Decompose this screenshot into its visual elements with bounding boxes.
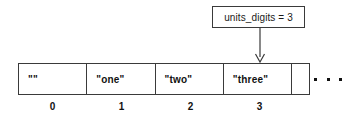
array-index-label: 2 — [188, 101, 194, 112]
array-index-diagram: units_digits = 3 "" "one" "two" "three" … — [0, 0, 343, 119]
ellipsis-dot — [339, 78, 342, 81]
array-cell-value: "" — [28, 74, 38, 85]
array-cell-0: "" — [19, 64, 87, 94]
array-cell-truncated — [292, 64, 309, 94]
array-container: "" "one" "two" "three" — [18, 63, 310, 95]
arrow-down-icon — [252, 28, 268, 64]
array-index-0: 0 — [18, 98, 87, 114]
ellipsis-dot — [314, 78, 317, 81]
array-cell-value: "two" — [165, 74, 193, 85]
array-cell-2: "two" — [156, 64, 224, 94]
array-cell-value: "three" — [233, 74, 268, 85]
ellipsis-dot — [327, 78, 330, 81]
array-cell-1: "one" — [87, 64, 155, 94]
array-index-label: 0 — [50, 101, 56, 112]
array-cell-3: "three" — [224, 64, 292, 94]
callout-box: units_digits = 3 — [212, 6, 305, 28]
array-cell-value: "one" — [96, 74, 124, 85]
callout-label: units_digits = 3 — [224, 12, 293, 23]
array-index-3: 3 — [225, 98, 294, 114]
array-index-1: 1 — [87, 98, 156, 114]
array-index-label: 3 — [257, 101, 263, 112]
array-index-labels: 0 1 2 3 — [18, 98, 310, 114]
array-index-2: 2 — [156, 98, 225, 114]
continuation-ellipsis-icon — [314, 70, 342, 88]
array-index-label: 1 — [119, 101, 125, 112]
